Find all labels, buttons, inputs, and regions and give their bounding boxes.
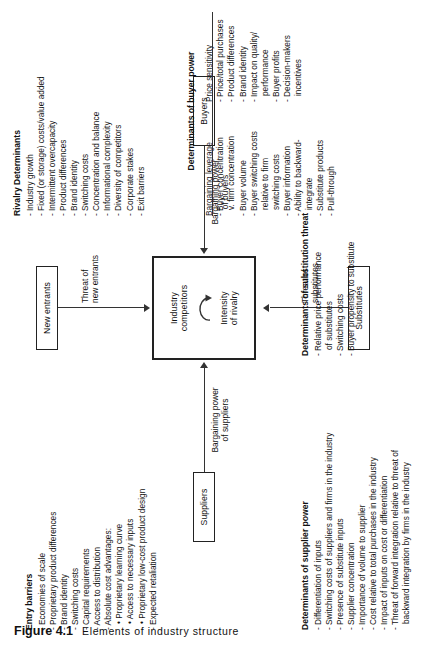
list-item: - Buyer profits xyxy=(271,6,282,102)
list-item: - Differentiation of inputs xyxy=(313,378,324,630)
buyer-power-column-bargaining-leverage: Bargaining leverage - Buyer concentratio… xyxy=(204,112,336,216)
figure-title: Elements of industry structure xyxy=(82,625,239,637)
connector-suppliers-horizontal xyxy=(204,368,205,472)
intensity-of-rivalry-label: Intensity of rivalry xyxy=(219,291,240,325)
buyer-power-rule xyxy=(212,12,213,216)
list-item: - Relative price performance xyxy=(313,204,324,356)
arrow-substitutes-to-center xyxy=(263,305,269,313)
list-item: - Pull-through xyxy=(326,112,337,216)
list-item: - Buyer propensity to substitute xyxy=(346,204,357,356)
list-item: backward integration by firms in the ind… xyxy=(401,378,412,630)
substitution-threat-list: - Relative price performance of substitu… xyxy=(313,204,357,356)
list-item: - Absolute cost advantages: xyxy=(103,400,114,630)
figure-rotated-canvas: Industry competitors Intensity of rivalr… xyxy=(0,0,422,646)
entry-barriers-title: Entry barriers xyxy=(24,400,35,630)
list-item: relative to firm xyxy=(260,112,271,216)
rivalry-determinants-list: - Industry growth- Fixed (or storage) co… xyxy=(25,4,146,216)
list-item: - Substitute products xyxy=(315,112,326,216)
list-item: of substitutes xyxy=(324,204,335,356)
list-item: • Access to necessary inputs xyxy=(125,400,136,630)
edge-label-bargaining-power-of-suppliers: Bargaining power of suppliers xyxy=(210,360,230,480)
box-new-entrants: New entrants xyxy=(36,266,58,350)
price-sensitivity-list: - Price/total purchases- Product differe… xyxy=(215,6,303,102)
list-item: - Switching costs xyxy=(335,204,346,356)
list-item: - Product differences xyxy=(226,6,237,102)
supplier-power-list: - Differentiation of inputs- Switching c… xyxy=(313,378,412,630)
list-item: - Cost relative to total purchases in th… xyxy=(368,378,379,630)
list-item: - Brand identity xyxy=(69,4,80,216)
arrow-new-entrants-to-center xyxy=(144,305,150,313)
block-substitution-threat: Determinants of substitution threat - Re… xyxy=(300,204,357,356)
list-item: - Buyer volume xyxy=(238,112,249,216)
block-buyer-power: Determinants of buyer power Bargaining l… xyxy=(186,6,337,216)
list-item: - Switching costs xyxy=(70,400,81,630)
buyer-power-column-price-sensitivity: Price sensitivity - Price/total purchase… xyxy=(204,6,336,102)
edge-label-threat-of-new-entrants: Threat of new entrants xyxy=(80,213,100,303)
list-item: - Access to distribution xyxy=(92,400,103,630)
list-item: - Product differences xyxy=(58,4,69,216)
list-item: - Threat of forward integration relative… xyxy=(390,378,401,630)
list-item: - Diversity of competitors xyxy=(113,4,124,216)
industry-structure-diagram: Industry competitors Intensity of rivalr… xyxy=(0,0,422,646)
bargaining-leverage-heading: Bargaining leverage xyxy=(204,112,215,216)
list-item: - Buyer concentration xyxy=(215,112,226,216)
list-item: - Intermittent overcapacity xyxy=(47,4,58,216)
new-entrants-label: New entrants xyxy=(42,282,52,334)
list-item: - Industry growth xyxy=(25,4,36,216)
block-rivalry-determinants: Rivalry Determinants - Industry growth- … xyxy=(12,4,147,216)
list-item: - Switching costs of suppliers and firms… xyxy=(324,378,335,630)
buyer-power-columns: Bargaining leverage - Buyer concentratio… xyxy=(204,6,336,216)
list-item: - Informational complexity xyxy=(102,4,113,216)
block-entry-barriers: Entry barriers - Economies of scale- Pro… xyxy=(24,400,159,630)
figure-number: Figure 4.1 xyxy=(14,624,73,638)
bargaining-leverage-list: - Buyer concentration v. firm concentrat… xyxy=(215,112,336,216)
rivalry-determinants-title: Rivalry Determinants xyxy=(12,4,23,216)
list-item: - Exit barriers xyxy=(136,4,147,216)
box-suppliers: Suppliers xyxy=(193,472,215,542)
list-item: - Expected retaliation xyxy=(148,400,159,630)
list-item: - Impact on quality/ xyxy=(249,6,260,102)
list-item: - Economies of scale xyxy=(37,400,48,630)
list-item: • Proprietary learning curve xyxy=(114,400,125,630)
suppliers-label: Suppliers xyxy=(199,489,209,526)
list-item: - Corporate stakes xyxy=(125,4,136,216)
supplier-power-title: Determinants of supplier power xyxy=(300,378,311,630)
list-item: performance xyxy=(260,6,271,102)
list-item: - Decision-makers xyxy=(282,6,293,102)
buyer-power-title: Determinants of buyer power xyxy=(186,6,197,216)
list-item: switching costs xyxy=(271,112,282,216)
price-sensitivity-heading: Price sensitivity xyxy=(204,6,215,102)
block-supplier-power: Determinants of supplier power - Differe… xyxy=(300,378,413,630)
rivalry-loop-icon xyxy=(193,291,217,325)
list-item: - Brand identity xyxy=(59,400,70,630)
list-item: - Buyer switching costs xyxy=(249,112,260,216)
list-item: v. firm concentration xyxy=(226,112,237,216)
industry-competitors-label: Industry competitors xyxy=(169,285,190,332)
list-item: integrate xyxy=(304,112,315,216)
list-item: - Supplier concentration xyxy=(346,378,357,630)
list-item: - Ability to backward- xyxy=(293,112,304,216)
figure-caption: Figure 4.1 Elements of industry structur… xyxy=(14,624,239,638)
list-item: - Buyer information xyxy=(282,112,293,216)
arrow-suppliers-to-center xyxy=(200,362,208,368)
substitution-threat-title: Determinants of substitution threat xyxy=(300,204,311,356)
box-industry-competitors: Industry competitors Intensity of rivalr… xyxy=(152,256,256,360)
list-item: - Impact of inputs on cost or differenti… xyxy=(379,378,390,630)
list-item: - Concentration and balance xyxy=(91,4,102,216)
list-item: - Proprietary product differences xyxy=(48,400,59,630)
list-item: - Brand identity xyxy=(238,6,249,102)
arrow-buyers-to-center xyxy=(200,249,208,255)
list-item: - Importance of volume to supplier xyxy=(357,378,368,630)
list-item: - Switching costs xyxy=(80,4,91,216)
list-item: • Proprietary low-cost product design xyxy=(137,400,148,630)
list-item: - Presence of substitute inputs xyxy=(335,378,346,630)
list-item: - Price/total purchases xyxy=(215,6,226,102)
list-item: incentives xyxy=(293,6,304,102)
list-item: - Fixed (or storage) costs/value added xyxy=(36,4,47,216)
entry-barriers-list: - Economies of scale- Proprietary produc… xyxy=(37,400,158,630)
list-item: - Capital requirements xyxy=(81,400,92,630)
connector-new-entrants-vertical xyxy=(58,307,144,308)
